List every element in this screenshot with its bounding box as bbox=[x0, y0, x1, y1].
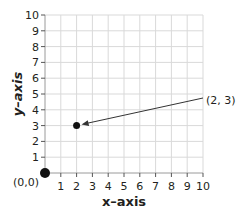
data-point bbox=[40, 168, 50, 178]
origin-label: (0,0) bbox=[13, 176, 39, 189]
x-tick-label: 3 bbox=[89, 180, 96, 193]
annotation-arrow-line bbox=[86, 98, 203, 124]
grid-lines bbox=[45, 15, 203, 173]
data-points bbox=[40, 122, 80, 178]
y-tick-label: 10 bbox=[25, 9, 39, 22]
x-tick-label: 1 bbox=[57, 180, 64, 193]
x-tick-label: 7 bbox=[152, 180, 159, 193]
x-axis-label: x–axis bbox=[102, 194, 146, 209]
x-tick-label: 10 bbox=[196, 180, 210, 193]
y-tick-label: 9 bbox=[32, 25, 39, 38]
arrow-annotation bbox=[82, 98, 203, 126]
x-tick-label: 6 bbox=[136, 180, 143, 193]
x-tick-label: 8 bbox=[168, 180, 175, 193]
y-tick-label: 6 bbox=[32, 72, 39, 85]
y-tick-label: 4 bbox=[32, 104, 39, 117]
y-tick-label: 7 bbox=[32, 56, 39, 69]
x-tick-label: 2 bbox=[73, 180, 80, 193]
y-tick-label: 5 bbox=[32, 88, 39, 101]
y-tick-label: 1 bbox=[32, 151, 39, 164]
y-axis-label: y–axis bbox=[10, 72, 25, 117]
y-tick-label: 2 bbox=[32, 135, 39, 148]
x-tick-labels: 12345678910 bbox=[57, 173, 210, 193]
x-tick-label: 9 bbox=[184, 180, 191, 193]
y-tick-label: 3 bbox=[32, 120, 39, 133]
y-tick-labels: 12345678910 bbox=[25, 9, 45, 164]
x-tick-label: 5 bbox=[121, 180, 128, 193]
data-point bbox=[73, 122, 80, 129]
point-label: (2, 3) bbox=[206, 94, 236, 107]
x-tick-label: 4 bbox=[105, 180, 112, 193]
coordinate-plane-chart: 12345678910 12345678910 y–axis x–axis (0… bbox=[0, 0, 236, 212]
y-tick-label: 8 bbox=[32, 41, 39, 54]
